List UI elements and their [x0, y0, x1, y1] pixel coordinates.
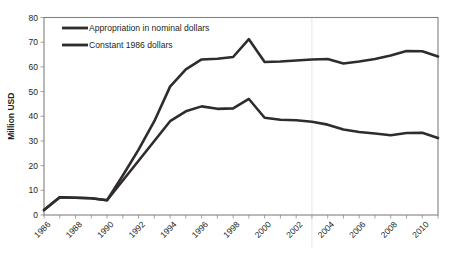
y-tick-label: 80 — [29, 13, 39, 23]
chart-canvas: 01020304050607080 1986198819901992199419… — [0, 0, 449, 253]
y-tick-label: 10 — [29, 185, 39, 195]
y-tick-label: 0 — [33, 210, 38, 220]
line-chart: 01020304050607080 1986198819901992199419… — [0, 0, 449, 253]
legend-label-0: Appropriation in nominal dollars — [89, 23, 209, 33]
legend-label-1: Constant 1986 dollars — [89, 40, 173, 50]
y-tick-label: 50 — [29, 87, 39, 97]
y-tick-label: 30 — [29, 136, 39, 146]
y-axis-tick-labels: 01020304050607080 — [29, 13, 39, 221]
y-axis-title: Million USD — [6, 93, 16, 140]
y-tick-label: 60 — [29, 62, 39, 72]
y-tick-label: 70 — [29, 37, 39, 47]
y-tick-label: 40 — [29, 111, 39, 121]
y-tick-label: 20 — [29, 161, 39, 171]
